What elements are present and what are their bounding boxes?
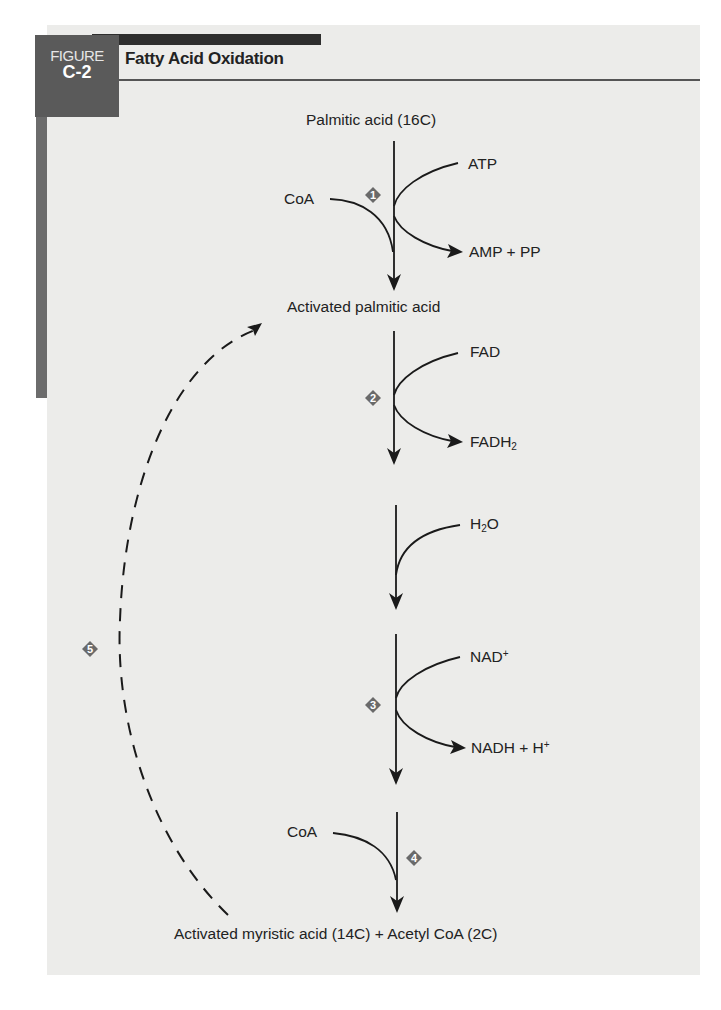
activated-palmitic-acid-label: Activated palmitic acid — [287, 298, 440, 316]
nadh-superscript: + — [544, 739, 550, 750]
step1-amp-label: AMP + PP — [469, 243, 541, 261]
step-marker-4: 4 — [406, 850, 422, 866]
step2-fad-label: FAD — [470, 343, 500, 361]
step3-nad-curve — [396, 657, 460, 698]
step2-main-arrow — [387, 331, 401, 465]
step-marker-2: 2 — [365, 390, 381, 406]
step5-arrowhead — [247, 323, 262, 336]
nadh-base: NADH + H — [471, 739, 544, 756]
step-marker-3: 3 — [365, 697, 381, 713]
step1-atp-label: ATP — [468, 155, 497, 173]
hydration-h2o-label: H2O — [470, 515, 499, 534]
step-marker-5: 5 — [82, 641, 98, 657]
fadh2-subscript: 2 — [511, 441, 517, 452]
pathway-diagram — [0, 0, 721, 1010]
nad-superscript: + — [503, 648, 509, 659]
step4-coa-label: CoA — [287, 823, 317, 841]
fadh2-base: FADH — [470, 433, 511, 450]
step3-nadh-arrow — [396, 710, 455, 747]
step3-nadh-label: NADH + H+ — [471, 739, 550, 757]
step1-coa-curve — [330, 199, 393, 252]
step4-main-arrow — [390, 812, 404, 913]
step5-recycle-dashed-arrow — [120, 330, 255, 915]
nad-base: NAD — [470, 648, 503, 665]
step3-nad-label: NAD+ — [470, 648, 509, 666]
step2-fadh2-label: FADH2 — [470, 433, 517, 452]
step1-amp-arrow — [394, 216, 452, 251]
step-number: 4 — [406, 851, 422, 865]
step4-coa-curve — [333, 833, 396, 880]
h2o-tail: O — [487, 515, 499, 532]
step1-coa-label: CoA — [284, 190, 314, 208]
step-number: 5 — [82, 642, 98, 656]
step2-fadh2-arrow — [394, 405, 452, 441]
step3-main-arrow — [389, 634, 403, 785]
final-products-label: Activated myristic acid (14C) + Acetyl C… — [174, 925, 497, 943]
step-number: 2 — [365, 391, 381, 405]
step2-fad-curve — [394, 353, 458, 395]
hydration-h2o-curve — [396, 525, 460, 575]
palmitic-acid-label: Palmitic acid (16C) — [306, 111, 436, 129]
h2o-base: H — [470, 515, 481, 532]
step-number: 1 — [365, 188, 381, 202]
step-marker-1: 1 — [365, 187, 381, 203]
step-number: 3 — [365, 698, 381, 712]
step1-atp-curve — [394, 163, 458, 206]
